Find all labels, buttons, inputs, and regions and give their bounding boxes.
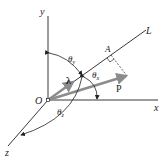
theta-y-arc bbox=[49, 53, 82, 75]
line-L-label: L bbox=[145, 25, 152, 36]
projection-line bbox=[111, 55, 127, 76]
vector-P bbox=[48, 76, 126, 100]
theta-z-arc bbox=[21, 77, 82, 135]
z-axis-label: z bbox=[4, 147, 9, 158]
point-A-label: A bbox=[104, 44, 111, 54]
direction-cosines-diagram: y x z O L A P λ θy θx θz bbox=[0, 0, 162, 162]
theta-x-label: θx bbox=[92, 70, 99, 81]
lambda-label: λ bbox=[66, 75, 71, 86]
vector-P-label: P bbox=[116, 83, 122, 94]
diagram-svg: y x z O L A P λ θy θx θz bbox=[0, 0, 162, 162]
theta-y-label: θy bbox=[68, 54, 75, 65]
origin-marker bbox=[47, 99, 50, 102]
right-angle-marker bbox=[107, 58, 114, 62]
origin-label: O bbox=[35, 95, 42, 106]
z-axis bbox=[8, 100, 48, 146]
x-axis-label: x bbox=[153, 102, 159, 113]
y-axis-label: y bbox=[39, 6, 45, 17]
theta-z-label: θz bbox=[57, 107, 64, 118]
